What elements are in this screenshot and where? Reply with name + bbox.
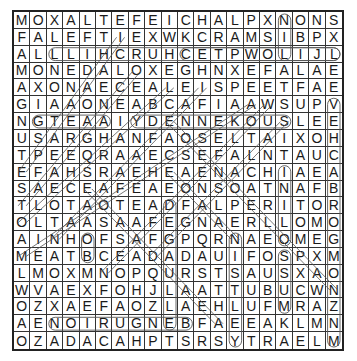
grid-cell[interactable]: A <box>47 248 63 265</box>
grid-cell[interactable]: E <box>14 164 30 181</box>
grid-cell[interactable]: I <box>112 113 128 130</box>
grid-cell[interactable]: E <box>194 298 210 315</box>
grid-cell[interactable]: N <box>326 315 342 332</box>
grid-cell[interactable]: F <box>145 130 161 147</box>
grid-cell[interactable]: N <box>145 315 161 332</box>
grid-cell[interactable]: I <box>162 12 178 29</box>
grid-cell[interactable]: T <box>162 332 178 349</box>
grid-cell[interactable]: E <box>309 231 325 248</box>
grid-cell[interactable]: H <box>194 63 210 80</box>
grid-cell[interactable]: X <box>63 265 79 282</box>
grid-cell[interactable]: F <box>145 231 161 248</box>
grid-cell[interactable]: E <box>244 79 260 96</box>
grid-cell[interactable]: N <box>194 113 210 130</box>
grid-cell[interactable]: C <box>112 46 128 63</box>
grid-cell[interactable]: G <box>178 214 194 231</box>
grid-cell[interactable]: Q <box>80 147 96 164</box>
grid-cell[interactable]: T <box>63 197 79 214</box>
grid-cell[interactable]: X <box>309 248 325 265</box>
grid-cell[interactable]: W <box>14 282 30 299</box>
grid-cell[interactable]: E <box>145 147 161 164</box>
grid-cell[interactable]: W <box>244 46 260 63</box>
grid-cell[interactable]: U <box>244 282 260 299</box>
grid-cell[interactable]: C <box>162 96 178 113</box>
grid-cell[interactable]: O <box>112 265 128 282</box>
grid-cell[interactable]: E <box>326 113 342 130</box>
grid-cell[interactable]: L <box>227 298 243 315</box>
grid-cell[interactable]: A <box>47 164 63 181</box>
grid-cell[interactable]: R <box>194 332 210 349</box>
grid-cell[interactable]: O <box>276 231 292 248</box>
grid-cell[interactable]: C <box>244 164 260 181</box>
grid-cell[interactable]: E <box>47 147 63 164</box>
grid-cell[interactable]: R <box>211 29 227 46</box>
grid-cell[interactable]: C <box>326 147 342 164</box>
grid-cell[interactable]: N <box>211 164 227 181</box>
grid-cell[interactable]: E <box>227 315 243 332</box>
grid-cell[interactable]: R <box>326 197 342 214</box>
grid-cell[interactable]: H <box>260 164 276 181</box>
grid-cell[interactable]: O <box>30 63 46 80</box>
grid-cell[interactable]: C <box>178 46 194 63</box>
grid-cell[interactable]: F <box>145 214 161 231</box>
grid-cell[interactable]: I <box>80 315 96 332</box>
grid-cell[interactable]: E <box>162 315 178 332</box>
grid-cell[interactable]: G <box>178 63 194 80</box>
grid-cell[interactable]: E <box>194 46 210 63</box>
grid-cell[interactable]: N <box>326 282 342 299</box>
grid-cell[interactable]: P <box>293 248 309 265</box>
grid-cell[interactable]: A <box>244 96 260 113</box>
grid-cell[interactable]: S <box>211 332 227 349</box>
grid-cell[interactable]: L <box>162 79 178 96</box>
grid-cell[interactable]: E <box>309 113 325 130</box>
grid-cell[interactable]: C <box>112 79 128 96</box>
grid-cell[interactable]: B <box>293 29 309 46</box>
grid-cell[interactable]: A <box>129 214 145 231</box>
grid-cell[interactable]: L <box>293 113 309 130</box>
grid-cell[interactable]: A <box>30 181 46 198</box>
grid-cell[interactable]: A <box>14 46 30 63</box>
grid-cell[interactable]: A <box>47 332 63 349</box>
grid-cell[interactable]: A <box>227 29 243 46</box>
grid-cell[interactable]: E <box>309 164 325 181</box>
grid-cell[interactable]: E <box>80 298 96 315</box>
grid-cell[interactable]: A <box>112 130 128 147</box>
grid-cell[interactable]: J <box>145 282 161 299</box>
grid-cell[interactable]: E <box>162 181 178 198</box>
grid-cell[interactable]: A <box>80 332 96 349</box>
grid-cell[interactable]: F <box>293 79 309 96</box>
grid-cell[interactable]: S <box>194 265 210 282</box>
grid-cell[interactable]: N <box>309 12 325 29</box>
grid-cell[interactable]: A <box>276 332 292 349</box>
grid-cell[interactable]: M <box>293 231 309 248</box>
grid-cell[interactable]: X <box>293 130 309 147</box>
grid-cell[interactable]: E <box>63 147 79 164</box>
grid-cell[interactable]: A <box>260 130 276 147</box>
grid-cell[interactable]: X <box>145 63 161 80</box>
grid-cell[interactable]: O <box>14 332 30 349</box>
grid-cell[interactable]: E <box>63 29 79 46</box>
grid-cell[interactable]: T <box>63 248 79 265</box>
grid-cell[interactable]: A <box>211 214 227 231</box>
grid-cell[interactable]: A <box>211 12 227 29</box>
grid-cell[interactable]: L <box>326 46 342 63</box>
grid-cell[interactable]: T <box>260 181 276 198</box>
grid-cell[interactable]: H <box>211 298 227 315</box>
grid-cell[interactable]: S <box>276 96 292 113</box>
grid-cell[interactable]: S <box>178 147 194 164</box>
grid-cell[interactable]: A <box>309 63 325 80</box>
grid-cell[interactable]: E <box>326 63 342 80</box>
grid-cell[interactable]: L <box>276 46 292 63</box>
grid-cell[interactable]: N <box>63 79 79 96</box>
grid-cell[interactable]: O <box>260 46 276 63</box>
grid-cell[interactable]: T <box>211 46 227 63</box>
grid-cell[interactable]: L <box>260 214 276 231</box>
grid-cell[interactable]: N <box>129 130 145 147</box>
grid-cell[interactable]: N <box>227 231 243 248</box>
grid-cell[interactable]: I <box>80 46 96 63</box>
grid-cell[interactable]: E <box>80 181 96 198</box>
grid-cell[interactable]: O <box>293 214 309 231</box>
grid-cell[interactable]: I <box>112 29 128 46</box>
grid-cell[interactable]: A <box>63 214 79 231</box>
grid-cell[interactable]: I <box>276 29 292 46</box>
